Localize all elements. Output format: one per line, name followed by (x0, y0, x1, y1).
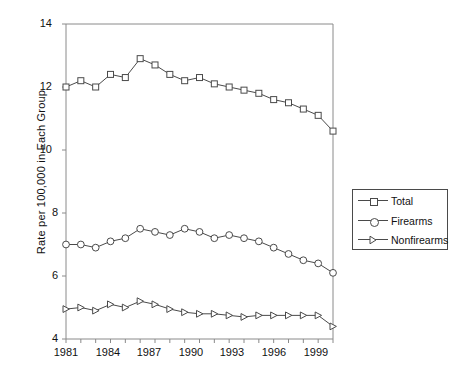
data-point-total (182, 78, 188, 84)
data-point-firearms (166, 232, 173, 239)
legend-item-firearms: Firearms (353, 211, 449, 231)
data-point-nonfirearms (211, 310, 217, 317)
data-point-total (286, 100, 292, 106)
data-point-total (300, 106, 306, 112)
data-point-total (226, 84, 232, 90)
data-point-firearms (107, 238, 114, 245)
data-point-firearms (330, 269, 337, 276)
data-point-total (78, 78, 84, 84)
data-point-nonfirearms (93, 307, 99, 314)
data-point-total (271, 97, 277, 103)
legend-marker-square-icon (358, 194, 388, 208)
legend-item-total: Total (353, 191, 449, 211)
data-point-nonfirearms (300, 312, 306, 319)
legend-item-nonfirearms: Nonfirearms (353, 230, 449, 250)
data-point-firearms (152, 229, 159, 236)
data-point-nonfirearms (286, 312, 292, 319)
legend-marker-triangle-icon (358, 233, 388, 247)
data-point-firearms (255, 238, 262, 245)
data-point-firearms (137, 225, 144, 232)
data-point-total (315, 112, 321, 118)
data-point-total (152, 62, 158, 68)
legend-label-total: Total (391, 195, 413, 207)
data-point-firearms (181, 225, 188, 232)
data-point-firearms (315, 260, 322, 267)
data-point-total (330, 128, 336, 134)
data-point-total (63, 84, 69, 90)
data-point-total (137, 56, 143, 62)
data-point-firearms (77, 241, 84, 248)
data-point-nonfirearms (226, 312, 232, 319)
data-point-firearms (226, 232, 233, 239)
legend-label-firearms: Firearms (391, 215, 432, 227)
data-point-firearms (92, 244, 99, 251)
data-point-total (93, 84, 99, 90)
data-point-nonfirearms (197, 310, 203, 317)
legend-marker-circle-icon (358, 214, 388, 228)
data-point-nonfirearms (152, 301, 158, 308)
data-point-nonfirearms (271, 312, 277, 319)
data-point-firearms (285, 251, 292, 258)
data-point-firearms (211, 235, 218, 242)
data-point-firearms (63, 241, 70, 248)
data-point-firearms (122, 235, 129, 242)
data-point-total (211, 81, 217, 87)
data-point-total (122, 75, 128, 81)
data-point-firearms (196, 229, 203, 236)
data-point-nonfirearms (122, 304, 128, 311)
data-point-nonfirearms (241, 314, 247, 321)
legend-label-nonfirearms: Nonfirearms (391, 234, 448, 246)
data-point-firearms (270, 244, 277, 251)
data-point-nonfirearms (78, 304, 84, 311)
data-point-firearms (241, 235, 248, 242)
data-point-total (197, 75, 203, 81)
data-point-total (167, 71, 173, 77)
data-point-nonfirearms (167, 306, 173, 313)
data-point-nonfirearms (137, 298, 143, 305)
data-point-nonfirearms (256, 312, 262, 319)
chart-figure: Rate per 100,000 in Each Group 4 6 8 10 … (0, 0, 461, 380)
data-point-nonfirearms (108, 301, 114, 308)
chart-legend: Total Firearms Nonfirearms (352, 189, 448, 250)
data-point-nonfirearms (182, 309, 188, 316)
data-point-total (108, 71, 114, 77)
data-point-total (256, 90, 262, 96)
data-point-total (241, 87, 247, 93)
data-point-firearms (300, 257, 307, 264)
